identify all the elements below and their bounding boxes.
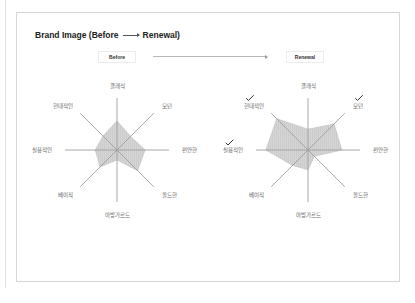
radar-axis-label: 올드한	[162, 192, 177, 198]
radar-area	[95, 121, 145, 171]
radar-axis-label: 모던	[353, 102, 363, 109]
radar-axis-label: 편안한	[182, 146, 197, 153]
radar-charts: 클래식모던편안한올드한아방가르드베이직실용적인현대적인 클래식모던편안한올드한아…	[0, 0, 415, 303]
radar-axis-label: 아방가르드	[105, 211, 130, 219]
radar-axis-label: 모던	[162, 102, 172, 109]
radar-axis	[308, 150, 345, 187]
radar-axis-label: 실용적인	[32, 146, 52, 154]
radar-chart-before: 클래식모던편안한올드한아방가르드베이직실용적인현대적인	[32, 82, 197, 219]
check-icon	[246, 95, 253, 100]
radar-axis-label: 베이직	[249, 191, 264, 199]
radar-axis-label: 편안한	[373, 146, 388, 153]
radar-axis-label: 실용적인	[223, 146, 243, 154]
check-icon	[226, 140, 233, 145]
radar-axis-label: 현대적인	[53, 102, 73, 110]
radar-area	[266, 119, 342, 170]
radar-axis-label: 올드한	[353, 192, 368, 198]
radar-axis-label: 아방가르드	[296, 211, 321, 219]
radar-chart-renewal: 클래식모던편안한올드한아방가르드베이직실용적인현대적인	[223, 82, 388, 219]
radar-axis-label: 클래식	[301, 82, 316, 90]
radar-axis-label: 베이직	[58, 191, 73, 199]
radar-axis-label: 현대적인	[244, 102, 264, 110]
check-icon	[356, 95, 363, 100]
radar-axis-label: 클래식	[110, 82, 125, 90]
